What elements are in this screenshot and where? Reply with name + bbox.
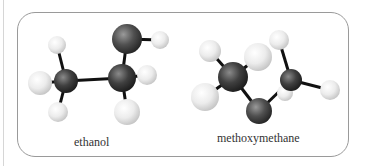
- hydrogen-atom: [114, 99, 140, 125]
- hydrogen-atom: [320, 80, 340, 100]
- hydrogen-atom: [151, 31, 169, 49]
- oxygen-atom: [246, 98, 272, 124]
- methoxymethane-label: methoxymethane: [217, 131, 300, 146]
- carbon-atom: [280, 69, 302, 91]
- carbon-atom: [54, 69, 78, 93]
- hydrogen-atom: [199, 40, 221, 62]
- hydrogen-atom: [28, 71, 52, 95]
- hydrogen-atom: [191, 83, 219, 111]
- hydrogen-atom: [244, 43, 272, 71]
- atoms-layer: [28, 24, 340, 125]
- carbon-atom: [108, 64, 136, 92]
- ethanol-label: ethanol: [74, 135, 109, 150]
- carbon-atom: [218, 62, 248, 92]
- oxygen-atom: [112, 24, 142, 54]
- hydrogen-atom: [48, 36, 66, 54]
- hydrogen-atom: [137, 65, 157, 85]
- molecule-diagram: [0, 0, 370, 166]
- hydrogen-atom: [48, 102, 68, 122]
- hydrogen-atom: [269, 30, 289, 50]
